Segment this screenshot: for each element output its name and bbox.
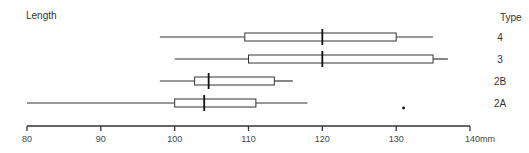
box-row-type-2a (27, 95, 405, 111)
x-axis (27, 126, 470, 131)
type-label: 4 (497, 32, 503, 43)
x-tick-label: 120 (315, 134, 330, 144)
outlier-point (402, 107, 405, 110)
iqr-box (245, 33, 396, 41)
iqr-box (175, 99, 256, 107)
iqr-box (249, 55, 434, 63)
type-label: 2B (494, 76, 506, 87)
box-row-type-4 (160, 29, 433, 45)
box-row-type-2b (160, 73, 293, 89)
x-tick-label: 80 (22, 134, 32, 144)
x-tick-label: 140mm (465, 134, 495, 144)
boxplot-chart (0, 0, 529, 153)
x-tick-label: 130 (389, 134, 404, 144)
type-label: 2A (494, 98, 506, 109)
type-label: 3 (497, 54, 503, 65)
box-row-type-3 (175, 51, 448, 67)
type-column-title: Type (500, 12, 522, 23)
box-group (27, 29, 448, 111)
x-tick-label: 90 (96, 134, 106, 144)
y-axis-title: Length (26, 10, 57, 21)
iqr-box (195, 77, 275, 85)
x-tick-label: 100 (167, 134, 182, 144)
x-tick-label: 110 (241, 134, 255, 144)
